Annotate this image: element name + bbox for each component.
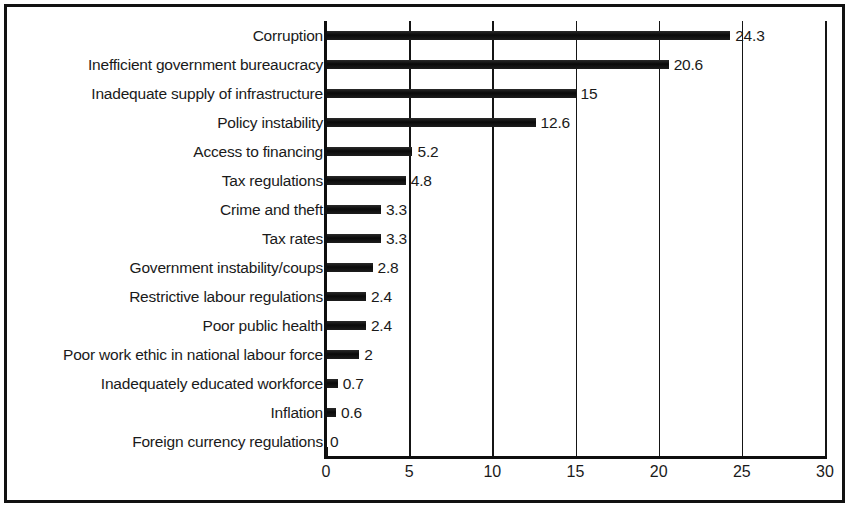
chart-row: Inefficient government bureaucracy20.6 <box>7 50 842 79</box>
bar-value-label: 2.8 <box>378 253 399 282</box>
x-tick-label: 25 <box>722 463 762 481</box>
bar <box>326 379 338 388</box>
category-label: Foreign currency regulations <box>132 427 323 456</box>
x-tick-25 <box>742 447 744 456</box>
chart-row: Policy instability12.6 <box>7 108 842 137</box>
bar <box>326 350 359 359</box>
x-tick-5 <box>409 447 411 456</box>
category-label: Access to financing <box>193 137 323 166</box>
bar <box>326 205 381 214</box>
category-label: Poor public health <box>203 311 323 340</box>
category-label: Policy instability <box>217 108 323 137</box>
bar <box>326 321 366 330</box>
category-label: Poor work ethic in national labour force <box>63 340 323 369</box>
bar-value-label: 20.6 <box>674 50 703 79</box>
bar <box>326 292 366 301</box>
bar-value-label: 3.3 <box>386 195 407 224</box>
x-tick-15 <box>576 447 578 456</box>
bar-value-label: 24.3 <box>735 21 764 50</box>
category-label: Corruption <box>253 21 323 50</box>
bar <box>326 147 412 156</box>
category-label: Government instability/coups <box>130 253 323 282</box>
bar <box>326 176 406 185</box>
x-tick-label: 10 <box>472 463 512 481</box>
bar-value-label: 4.8 <box>411 166 432 195</box>
x-tick-label: 15 <box>556 463 596 481</box>
x-axis-line <box>324 456 827 459</box>
y-axis-line <box>324 21 327 458</box>
chart-row: Inadequately educated workforce0.7 <box>7 369 842 398</box>
category-label: Tax rates <box>262 224 323 253</box>
x-tick-label: 20 <box>639 463 679 481</box>
bar-value-label: 3.3 <box>386 224 407 253</box>
category-label: Inflation <box>271 398 324 427</box>
category-label: Inadequately educated workforce <box>101 369 323 398</box>
chart-row: Foreign currency regulations0 <box>7 427 842 456</box>
category-label: Tax regulations <box>222 166 323 195</box>
bar <box>326 118 536 127</box>
chart-row: Inadequate supply of infrastructure15 <box>7 79 842 108</box>
chart-row: Poor public health2.4 <box>7 311 842 340</box>
category-label: Inadequate supply of infrastructure <box>91 79 323 108</box>
chart-figure-frame: Corruption24.3Inefficient government bur… <box>4 4 845 503</box>
x-tick-30 <box>825 447 827 456</box>
chart-row: Inflation0.6 <box>7 398 842 427</box>
bar-value-label: 12.6 <box>541 108 570 137</box>
bar-value-label: 2.4 <box>371 311 392 340</box>
chart-row: Access to financing5.2 <box>7 137 842 166</box>
chart-row: Crime and theft3.3 <box>7 195 842 224</box>
chart-row: Tax regulations4.8 <box>7 166 842 195</box>
chart-canvas: Corruption24.3Inefficient government bur… <box>7 7 842 500</box>
chart-row: Tax rates3.3 <box>7 224 842 253</box>
x-tick-0 <box>326 447 328 456</box>
category-label: Inefficient government bureaucracy <box>88 50 323 79</box>
bar <box>326 234 381 243</box>
bar <box>326 60 669 69</box>
bar-value-label: 0.6 <box>341 398 362 427</box>
x-tick-label: 0 <box>306 463 346 481</box>
bar <box>326 89 576 98</box>
bar <box>326 408 336 417</box>
bar <box>326 263 373 272</box>
bar-value-label: 2.4 <box>371 282 392 311</box>
category-label: Crime and theft <box>220 195 323 224</box>
chart-row: Corruption24.3 <box>7 21 842 50</box>
chart-row: Restrictive labour regulations2.4 <box>7 282 842 311</box>
bar-value-label: 5.2 <box>417 137 438 166</box>
x-tick-label: 30 <box>805 463 845 481</box>
bar-value-label: 0.7 <box>343 369 364 398</box>
x-tick-10 <box>492 447 494 456</box>
chart-row: Poor work ethic in national labour force… <box>7 340 842 369</box>
bar <box>326 31 730 40</box>
bar-value-label: 15 <box>581 79 598 108</box>
x-tick-20 <box>659 447 661 456</box>
x-tick-label: 5 <box>389 463 429 481</box>
bar-value-label: 0 <box>330 427 338 456</box>
bar-value-label: 2 <box>364 340 372 369</box>
category-label: Restrictive labour regulations <box>129 282 323 311</box>
chart-row: Government instability/coups2.8 <box>7 253 842 282</box>
